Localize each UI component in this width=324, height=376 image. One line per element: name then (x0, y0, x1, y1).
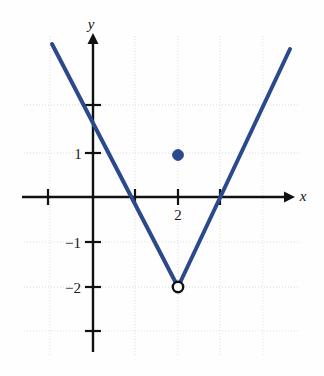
x-axis-arrowhead (284, 192, 295, 203)
graph-figure: 1 −1 −2 2 x y (0, 0, 324, 376)
tick-label-y-1: 1 (74, 146, 82, 162)
axis-tick-labels: 1 −1 −2 2 (65, 146, 182, 296)
y-axis-arrowhead (88, 33, 99, 44)
tick-label-y-neg2: −2 (65, 280, 81, 296)
axes (22, 33, 295, 352)
tick-marks (48, 105, 220, 331)
tick-label-x-2: 2 (174, 207, 182, 223)
filled-point-marker (173, 150, 184, 161)
x-axis-label: x (299, 188, 307, 204)
function-graph-svg: 1 −1 −2 2 x y (0, 0, 324, 376)
open-circle-hole-marker (173, 282, 183, 292)
right-branch-ray (178, 49, 290, 287)
tick-label-y-neg1: −1 (65, 235, 81, 251)
function-curve (52, 44, 290, 287)
y-axis-label: y (86, 16, 95, 32)
